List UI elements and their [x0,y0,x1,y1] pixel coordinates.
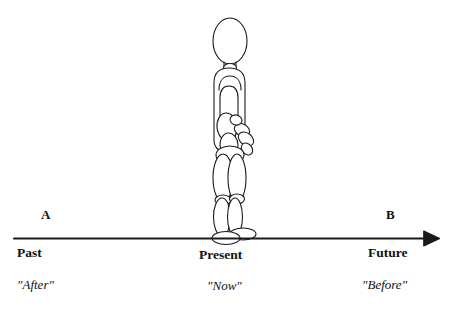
endpoint-marker-b: B [386,208,395,221]
gloss-label-now: "Now" [207,279,242,292]
gloss-label-after: "After" [17,278,54,291]
diagram-canvas: A Past "After" Present "Now" B Future "B… [0,0,450,309]
gloss-label-before: "Before" [362,278,407,291]
figure-head [213,18,247,64]
endpoint-marker-a: A [41,208,50,221]
time-axis-arrowhead [424,231,440,246]
era-label-future: Future [368,246,408,260]
era-label-past: Past [17,246,42,260]
era-label-present: Present [199,248,242,262]
timeline-figure-graphic [0,0,450,309]
